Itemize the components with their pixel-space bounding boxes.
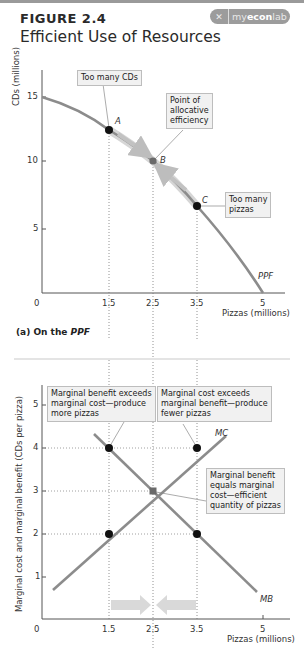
- ppf-x-tick-3-5: 3.5: [190, 298, 204, 308]
- ppf-curve-label: PPF: [258, 271, 273, 281]
- annotation-mb-exceeds-mc: Marginal benefit exceedsmarginal cost—pr…: [47, 386, 156, 422]
- mcmb-x-axis-label: Pizzas (millions): [227, 634, 295, 644]
- mb-point-1-5: [105, 444, 113, 452]
- mcmb-y-tick-2: 2: [33, 528, 38, 538]
- annotation-mb-equals-mc: Marginal benefitequals marginalcost—effi…: [206, 468, 285, 514]
- point-c: [193, 202, 201, 210]
- mcmb-x-tick-1-5: 1.5: [102, 624, 116, 634]
- point-c-label: C: [202, 195, 208, 205]
- annotation-too-many-pizzas: Too manypizzas: [225, 192, 271, 218]
- mc-point-3-5: [193, 444, 201, 452]
- right-arrow-icon: [111, 595, 151, 615]
- panel-divider: [14, 358, 290, 360]
- left-arrow-icon: [156, 595, 196, 615]
- mc-point-1-5: [105, 530, 113, 538]
- mcmb-x-tick-2-5: 2.5: [146, 624, 160, 634]
- ppf-x-tick-5: 5: [260, 298, 265, 308]
- mc-line: [53, 436, 226, 590]
- point-a: [105, 126, 113, 134]
- point-a-label: A: [115, 116, 121, 126]
- mcmb-y-tick-5: 5: [33, 399, 38, 409]
- mc-label: MC: [215, 428, 228, 438]
- ppf-x-tick-1-5: 1.5: [102, 298, 116, 308]
- annotation-too-many-cds: Too many CDs: [77, 70, 142, 86]
- ppf-y-tick-10: 10: [27, 155, 38, 165]
- mcmb-x-tick-0: 0: [34, 624, 39, 634]
- panel-a-caption: (a) On the PPF: [16, 327, 90, 337]
- mb-label: MB: [260, 594, 273, 604]
- ppf-y-axis-label: CDs (millions): [11, 47, 21, 106]
- mcmb-y-tick-4: 4: [33, 442, 38, 452]
- point-b-label: B: [160, 155, 166, 165]
- annotation-mc-exceeds-mb: Marginal cost exceedsmarginal benefit—pr…: [157, 386, 272, 422]
- ppf-y-tick-15: 15: [27, 91, 38, 101]
- ppf-x-tick-2-5: 2.5: [146, 298, 160, 308]
- annotation-allocative-efficiency: Point ofallocativeefficiency: [166, 93, 213, 129]
- equilibrium-point: [150, 488, 157, 495]
- ppf-y-tick-5: 5: [33, 223, 38, 233]
- mcmb-y-tick-3: 3: [33, 485, 38, 495]
- point-b: [149, 157, 156, 164]
- mcmb-y-axis-label: Marginal cost and marginal benefit (CDs …: [14, 396, 24, 612]
- mcmb-y-tick-1: 1: [35, 571, 40, 581]
- mb-point-3-5: [193, 530, 201, 538]
- ppf-x-tick-0: 0: [34, 298, 39, 308]
- ppf-x-axis-label: Pizzas (millions): [222, 308, 290, 318]
- mcmb-x-tick-3-5: 3.5: [190, 624, 204, 634]
- mcmb-x-tick-5: 5: [260, 624, 265, 634]
